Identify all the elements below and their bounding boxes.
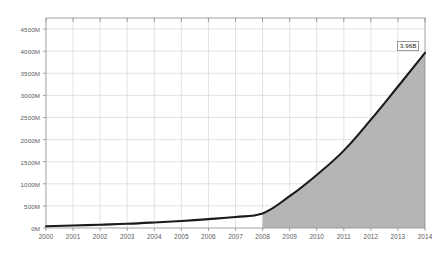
x-axis-tick-label: 2014 bbox=[418, 233, 433, 240]
y-axis-tick-label: 2000M bbox=[2, 136, 40, 143]
x-axis-tick-label: 2003 bbox=[120, 233, 135, 240]
x-axis-tick-label: 2002 bbox=[93, 233, 108, 240]
chart-container: 0M500M1000M1500M2000M2500M3000M3500M4000… bbox=[0, 0, 444, 259]
y-axis-ticks bbox=[43, 29, 46, 228]
x-axis-tick-label: 2000 bbox=[39, 233, 54, 240]
x-axis-tick-label: 2004 bbox=[147, 233, 162, 240]
x-axis-tick-label: 2005 bbox=[174, 233, 189, 240]
x-axis-tick-label: 2007 bbox=[228, 233, 243, 240]
x-axis-tick-label: 2010 bbox=[309, 233, 324, 240]
data-point-label: 3.96B bbox=[397, 41, 419, 51]
x-axis-tick-label: 2008 bbox=[255, 233, 270, 240]
y-axis-tick-label: 0M bbox=[2, 225, 40, 232]
x-axis-tick-label: 2006 bbox=[201, 233, 216, 240]
y-axis-tick-label: 4000M bbox=[2, 48, 40, 55]
y-axis-tick-label: 3000M bbox=[2, 92, 40, 99]
y-axis-tick-label: 4500M bbox=[2, 26, 40, 33]
y-axis-tick-label: 2500M bbox=[2, 114, 40, 121]
x-axis-ticks bbox=[46, 228, 425, 231]
x-axis-tick-label: 2011 bbox=[337, 233, 351, 240]
y-axis-tick-label: 3500M bbox=[2, 70, 40, 77]
y-axis-tick-label: 1500M bbox=[2, 158, 40, 165]
y-axis-tick-label: 1000M bbox=[2, 180, 40, 187]
x-axis-tick-label: 2013 bbox=[391, 233, 406, 240]
y-axis-tick-label: 500M bbox=[2, 202, 40, 209]
chart-plot-area bbox=[0, 0, 444, 259]
x-axis-tick-label: 2012 bbox=[364, 233, 379, 240]
x-axis-tick-label: 2009 bbox=[282, 233, 297, 240]
x-axis-tick-label: 2001 bbox=[66, 233, 81, 240]
